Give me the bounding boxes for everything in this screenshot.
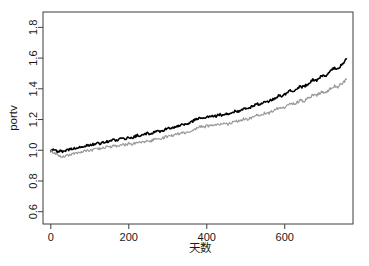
y-tick-label: 1.2 (27, 112, 39, 127)
y-tick-label: 1.4 (27, 81, 39, 96)
y-tick-label: 1.0 (27, 143, 39, 158)
x-tick-label: 0 (48, 231, 54, 243)
x-tick-label: 600 (276, 231, 294, 243)
y-axis-title: portv (7, 105, 19, 131)
y-tick-label: 1.6 (27, 50, 39, 65)
x-tick-label: 200 (120, 231, 138, 243)
portv-line-chart: 0200400600 0.60.81.01.21.41.61.8 天数 port… (0, 0, 369, 266)
clipped-footer-text (0, 257, 369, 266)
y-tick-label: 0.6 (27, 204, 39, 219)
x-axis-title: 天数 (189, 241, 212, 254)
y-tick-label: 1.8 (27, 20, 39, 35)
y-tick-label: 0.8 (27, 173, 39, 188)
chart-container: 0200400600 0.60.81.01.21.41.61.8 天数 port… (0, 0, 369, 266)
